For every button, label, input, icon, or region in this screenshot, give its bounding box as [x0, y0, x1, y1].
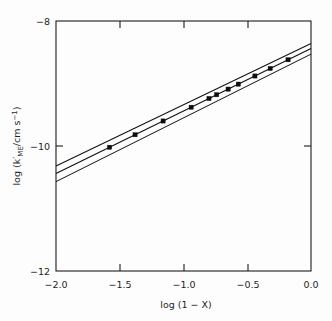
y-tick-label-bottom: −12: [30, 266, 50, 277]
data-point: [207, 96, 211, 100]
y-axis-title-subscript: ME: [17, 146, 25, 156]
x-tick-label-0: −2.0: [44, 279, 67, 290]
data-point: [253, 74, 257, 78]
y-axis-title-superscript: −1: [11, 110, 19, 120]
chart-canvas: −8 −10 −12 −2.0 −1.5 −1.0 −0.5 0.0 log (…: [0, 0, 332, 321]
data-point: [189, 105, 193, 109]
data-point: [226, 87, 230, 91]
data-point: [286, 58, 290, 62]
y-tick-label-top: −8: [36, 16, 50, 27]
regression-line: [56, 49, 311, 174]
y-axis-title-group: log (k′ME/cm s−1): [11, 106, 25, 185]
x-axis-ticks: [120, 264, 248, 271]
y-axis-title: log (k′ME/cm s−1): [11, 106, 25, 185]
data-point: [268, 66, 272, 70]
data-point: [107, 145, 111, 149]
lower-confidence-band: [56, 54, 311, 182]
x-tick-label-4: 0.0: [303, 279, 318, 290]
x-axis-ticks-top: [120, 21, 248, 28]
upper-confidence-band: [56, 44, 311, 167]
y-tick-label-mid: −10: [30, 141, 50, 152]
data-point: [215, 93, 219, 97]
data-point: [161, 119, 165, 123]
data-point: [236, 82, 240, 86]
figure-container: −8 −10 −12 −2.0 −1.5 −1.0 −0.5 0.0 log (…: [0, 0, 332, 321]
x-tick-label-2: −1.0: [172, 279, 195, 290]
plot-frame: [56, 21, 311, 271]
data-point: [133, 133, 137, 137]
y-axis-title-suffix: ): [11, 106, 22, 110]
y-axis-title-mid: /cm s: [11, 120, 22, 146]
y-axis-title-prefix: log (k′: [11, 157, 22, 186]
x-tick-label-1: −1.5: [108, 279, 131, 290]
x-tick-label-3: −0.5: [236, 279, 259, 290]
x-axis-title: log (1 − X): [160, 299, 211, 310]
